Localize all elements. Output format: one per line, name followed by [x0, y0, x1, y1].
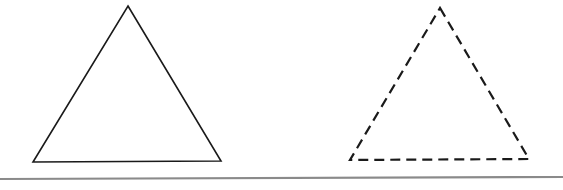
figure-canvas: Two triangles above a horizontal rule	[0, 0, 563, 190]
geometry-figure: Two triangles above a horizontal rule	[0, 0, 563, 190]
